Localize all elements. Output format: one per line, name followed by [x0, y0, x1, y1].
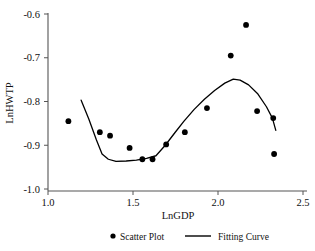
- chart-legend: Scatter Plot Fitting Curve: [110, 232, 269, 242]
- scatter-point: [163, 141, 169, 147]
- x-axis-title: LnGDP: [162, 210, 195, 221]
- legend-scatter-label: Scatter Plot: [120, 232, 164, 242]
- y-tick-label: -0.7: [23, 52, 40, 63]
- axes: [48, 13, 307, 191]
- scatter-point: [139, 156, 145, 162]
- scatter-point: [243, 22, 249, 28]
- y-tick-label: -1.0: [23, 184, 40, 195]
- scatter-point: [204, 105, 210, 111]
- scatter-point: [254, 108, 260, 114]
- scatter-point: [271, 151, 277, 157]
- scatter-point: [66, 118, 72, 124]
- scatter-point: [107, 133, 113, 139]
- y-tick-label: -0.9: [23, 140, 40, 151]
- y-axis-title: LnHWTP: [4, 82, 15, 124]
- chart-canvas: -0.6-0.7-0.8-0.9-1.0 1.01.52.02.5 LnGDP …: [0, 0, 315, 251]
- legend-scatter-marker: [110, 233, 115, 238]
- scatter-point: [150, 156, 156, 162]
- x-tick-label: 2.5: [296, 197, 309, 208]
- scatter-point: [228, 53, 234, 59]
- scatter-point: [270, 115, 276, 121]
- y-tick-label: -0.6: [23, 9, 40, 20]
- fitting-curve-path: [81, 79, 276, 161]
- legend-curve-label: Fitting Curve: [218, 232, 269, 242]
- chart-figure: -0.6-0.7-0.8-0.9-1.0 1.01.52.02.5 LnGDP …: [0, 0, 315, 251]
- x-tick-label: 1.0: [41, 197, 54, 208]
- x-tick-label: 2.0: [211, 197, 224, 208]
- scatter-point: [97, 129, 103, 135]
- y-axis-ticks: -0.6-0.7-0.8-0.9-1.0: [23, 9, 48, 195]
- scatter-point: [127, 145, 133, 151]
- scatter-point: [182, 129, 188, 135]
- x-tick-label: 1.5: [126, 197, 139, 208]
- fitting-curve-series: [81, 79, 276, 161]
- x-axis-ticks: 1.01.52.02.5: [41, 191, 309, 208]
- y-tick-label: -0.8: [23, 96, 40, 107]
